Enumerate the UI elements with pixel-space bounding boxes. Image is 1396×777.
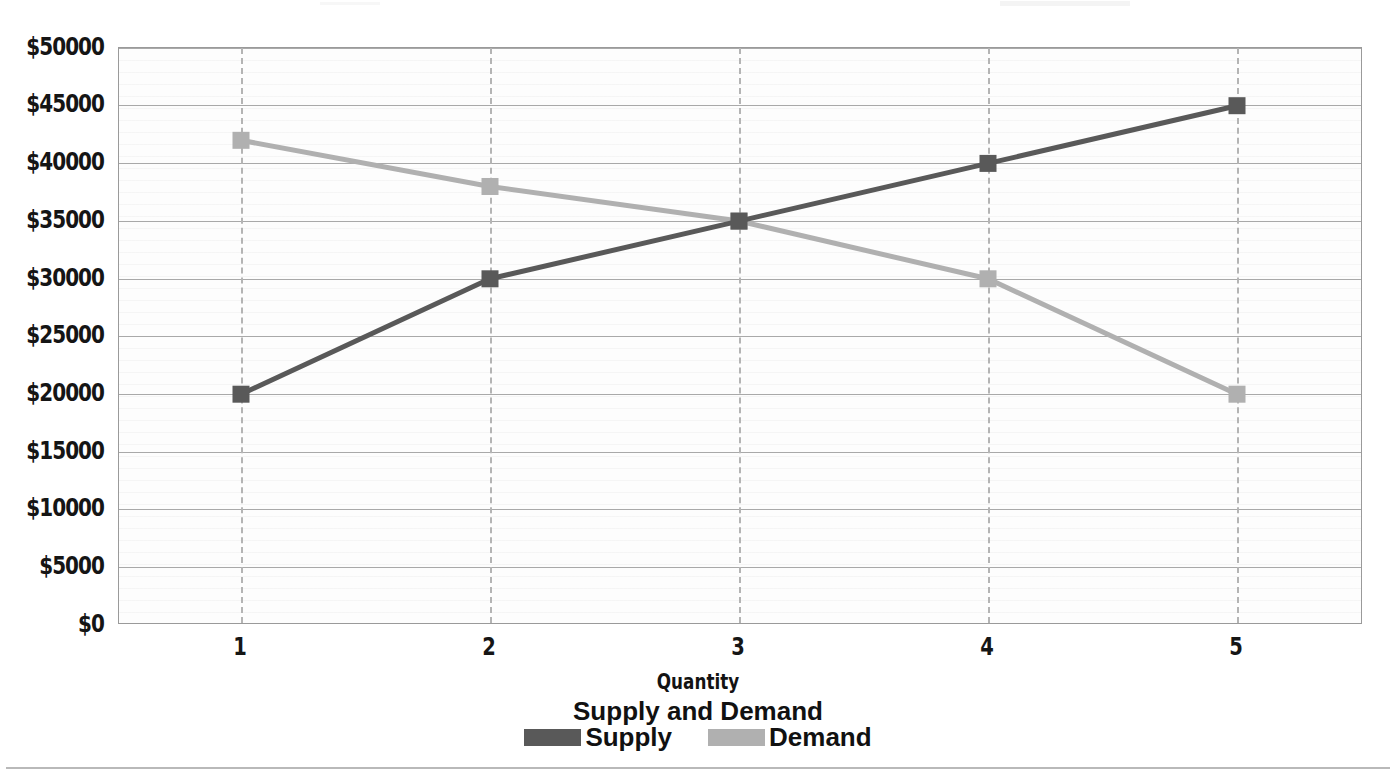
- series-demand: [233, 132, 1246, 403]
- scan-artifact-top: [1000, 1, 1130, 6]
- legend-swatch-icon: [524, 729, 581, 746]
- x-axis-tick-label: 4: [964, 634, 1011, 659]
- data-point-marker: [731, 213, 748, 230]
- series-line: [241, 140, 1237, 394]
- y-axis-tick-label: $25000: [0, 322, 104, 347]
- y-axis-tick-label: $50000: [0, 34, 104, 59]
- y-axis-tick-label: $30000: [0, 265, 104, 290]
- series-supply: [233, 97, 1246, 403]
- data-point-marker: [482, 178, 499, 195]
- data-point-marker: [233, 386, 250, 403]
- legend-entry-demand[interactable]: Demand: [708, 724, 872, 750]
- data-point-marker: [233, 132, 250, 149]
- y-axis-tick-label: $45000: [0, 91, 104, 116]
- chart-title: Supply and Demand: [0, 698, 1396, 724]
- y-axis-tick-label: $0: [0, 611, 104, 636]
- chart-series-layer: [119, 48, 1362, 624]
- legend-label-supply: Supply: [585, 724, 672, 750]
- data-point-marker: [1229, 386, 1246, 403]
- y-axis-tick-label: $40000: [0, 149, 104, 174]
- data-point-marker: [980, 270, 997, 287]
- data-point-marker: [980, 155, 997, 172]
- legend-label-demand: Demand: [769, 724, 872, 750]
- y-axis-tick-label: $5000: [0, 553, 104, 578]
- plot-area: [118, 47, 1362, 624]
- series-line: [241, 106, 1237, 395]
- x-axis-tick-label: 5: [1213, 634, 1260, 659]
- data-point-marker: [482, 270, 499, 287]
- y-axis-tick-label: $10000: [0, 495, 104, 520]
- x-axis-tick-label: 3: [715, 634, 762, 659]
- x-axis-tick-label: 2: [466, 634, 513, 659]
- legend-swatch-icon: [708, 729, 765, 746]
- chart-figure: $50000 $45000 $40000 $35000 $30000 $2500…: [0, 0, 1396, 777]
- x-axis-tick-label: 1: [217, 634, 264, 659]
- y-axis-tick-label: $20000: [0, 380, 104, 405]
- legend-entry-supply[interactable]: Supply: [524, 724, 672, 750]
- data-point-marker: [1229, 97, 1246, 114]
- scan-artifact-top-secondary: [320, 2, 380, 5]
- chart-legend: Supply Demand: [0, 724, 1396, 750]
- page-bottom-rule: [6, 767, 1390, 769]
- y-axis-tick-label: $35000: [0, 207, 104, 232]
- y-axis-tick-label: $15000: [0, 438, 104, 463]
- x-axis-title: Quantity: [140, 672, 1257, 693]
